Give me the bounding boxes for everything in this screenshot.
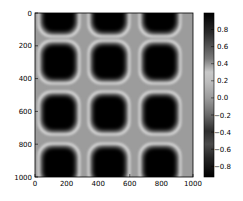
colorbar-tick-label: 0.2 <box>217 77 228 85</box>
colorbar <box>204 13 214 177</box>
colorbar-tick-label: −0.8 <box>214 163 231 171</box>
heatmap-image <box>35 0 193 186</box>
y-tick-label: 600 <box>19 108 32 116</box>
y-tick-label: 400 <box>19 75 32 83</box>
y-tick-label: 200 <box>19 42 32 50</box>
colorbar-tick-label: 0.6 <box>217 43 229 51</box>
colorbar-tick-label: 0.0 <box>217 94 228 102</box>
x-tick-label: 1000 <box>184 180 202 188</box>
x-tick-label: 200 <box>60 180 73 188</box>
colorbar-tick-label: 0.4 <box>217 60 229 68</box>
x-tick-label: 400 <box>92 180 105 188</box>
x-tick-label: 800 <box>155 180 168 188</box>
heatmap-chart: 0 200 400 600 800 1000 0 200 400 600 800… <box>0 0 243 201</box>
colorbar-tick-label: −0.6 <box>214 146 232 154</box>
y-tick-label: 800 <box>19 141 32 149</box>
colorbar-tick-label: −0.4 <box>214 129 232 137</box>
colorbar-tick-label: −0.2 <box>214 112 231 120</box>
x-tick-label: 0 <box>33 180 37 188</box>
x-tick-label: 600 <box>123 180 136 188</box>
colorbar-tick-label: 0.8 <box>217 26 228 34</box>
y-tick-label: 0 <box>28 10 32 18</box>
y-tick-label: 1000 <box>14 174 32 182</box>
